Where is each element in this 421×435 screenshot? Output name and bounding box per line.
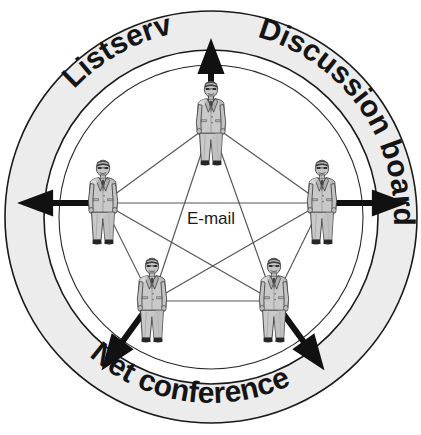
- center-label: E-mail: [187, 209, 235, 228]
- diagram-canvas: E-mail Listserv Discussion board Net con…: [0, 0, 421, 435]
- network-diagram: E-mail Listserv Discussion board Net con…: [0, 0, 421, 435]
